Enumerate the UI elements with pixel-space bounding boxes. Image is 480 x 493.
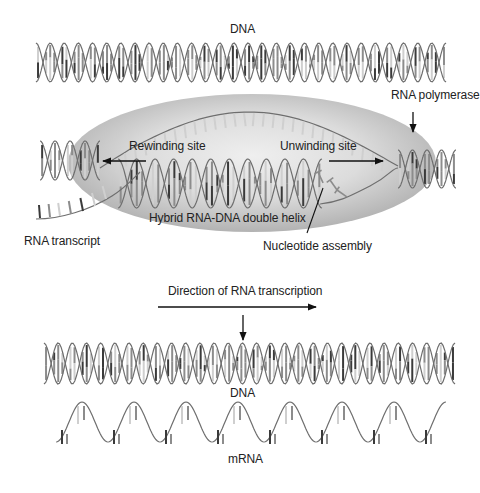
label-unwinding-site: Unwinding site	[280, 139, 357, 153]
label-nucleotide-assembly: Nucleotide assembly	[263, 239, 372, 253]
label-dna-top: DNA	[230, 22, 255, 36]
label-hybrid-helix: Hybrid RNA-DNA double helix	[149, 211, 306, 225]
label-rna-transcript: RNA transcript	[24, 234, 100, 248]
label-direction-of-transcription: Direction of RNA transcription	[168, 284, 322, 298]
bottom-dna-helix	[44, 343, 455, 384]
transcription-diagram: DNA RNA polymerase Rewinding site Unwind…	[0, 0, 480, 493]
mrna-strand	[56, 402, 446, 444]
label-dna-bottom: DNA	[230, 386, 255, 400]
label-rna-polymerase: RNA polymerase	[391, 88, 480, 102]
label-rewinding-site: Rewinding site	[129, 139, 206, 153]
top-dna-helix	[36, 43, 446, 82]
label-mrna: mRNA	[228, 452, 263, 466]
